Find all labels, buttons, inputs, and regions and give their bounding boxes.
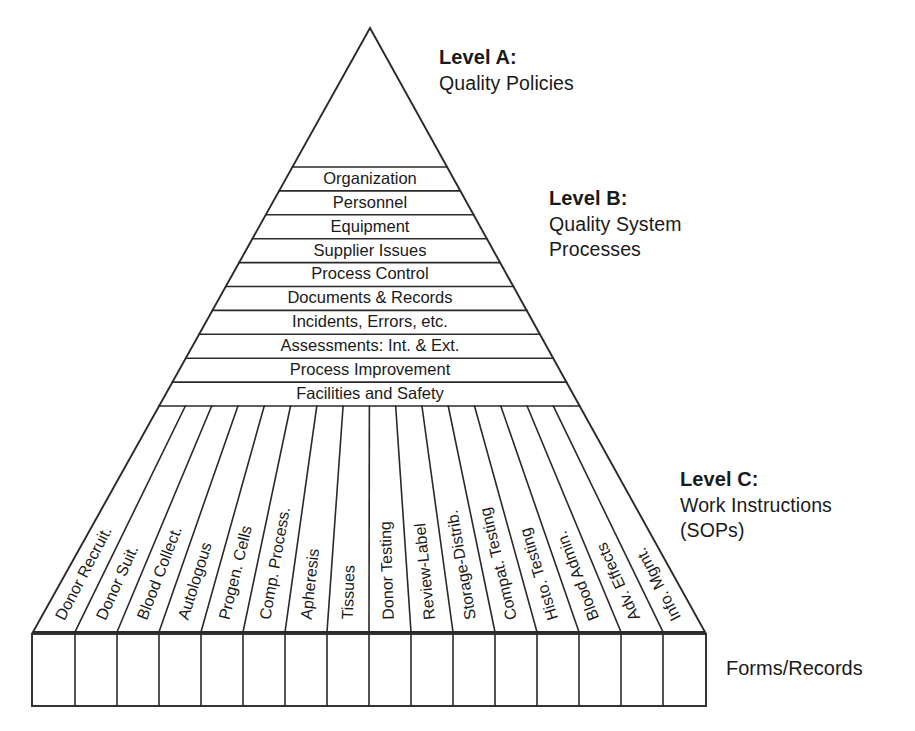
level-b-band-label: Assessments: Int. & Ext. bbox=[281, 336, 460, 354]
level-a-heading: Level A: bbox=[439, 45, 574, 71]
level-a-subtitle: Quality Policies bbox=[439, 71, 574, 96]
level-b-band-labels: OrganizationPersonnelEquipmentSupplier I… bbox=[281, 169, 460, 402]
level-b-band-label: Incidents, Errors, etc. bbox=[292, 312, 448, 330]
level-c-column-labels: Donor Recruit.Donor Suit.Blood Collect.A… bbox=[52, 506, 684, 624]
level-a-callout: Level A: Quality Policies bbox=[439, 45, 574, 96]
level-c-column-label: Review-Label bbox=[411, 522, 438, 620]
level-c-column-lines bbox=[75, 406, 663, 632]
level-c-column-label: Compat. Testing bbox=[476, 506, 520, 622]
level-c-callout: Level C: Work Instructions(SOPs) bbox=[680, 467, 832, 543]
level-b-band-label: Facilities and Safety bbox=[296, 384, 444, 402]
level-c-subtitle: Work Instructions(SOPs) bbox=[680, 493, 832, 543]
forms-records-label: Forms/Records bbox=[726, 657, 863, 680]
level-b-band-label: Supplier Issues bbox=[314, 241, 427, 259]
pyramid-svg: OrganizationPersonnelEquipmentSupplier I… bbox=[0, 0, 915, 731]
level-b-callout: Level B: Quality SystemProcesses bbox=[549, 186, 682, 262]
level-c-column-label: Apheresis bbox=[298, 548, 322, 621]
level-b-band-label: Organization bbox=[323, 169, 417, 187]
level-b-band-label: Documents & Records bbox=[287, 288, 452, 306]
level-b-band-label: Process Improvement bbox=[290, 360, 451, 378]
level-b-subtitle: Quality SystemProcesses bbox=[549, 212, 682, 262]
level-c-column-label: Donor Testing bbox=[377, 521, 397, 620]
level-c-column-label: Tissues bbox=[339, 565, 358, 620]
pyramid-diagram: OrganizationPersonnelEquipmentSupplier I… bbox=[0, 0, 915, 731]
level-b-band-label: Equipment bbox=[331, 217, 410, 235]
level-b-band-label: Personnel bbox=[333, 193, 407, 211]
forms-records-box bbox=[32, 634, 706, 706]
level-b-heading: Level B: bbox=[549, 186, 682, 212]
level-c-column-label: Autologous bbox=[175, 540, 215, 621]
level-b-band-label: Process Control bbox=[311, 264, 428, 282]
level-c-column-label: Comp. Process. bbox=[257, 506, 293, 621]
level-c-heading: Level C: bbox=[680, 467, 832, 493]
